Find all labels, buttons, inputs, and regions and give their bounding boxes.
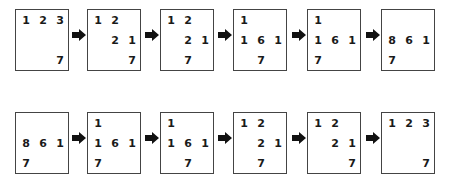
grid-cell: 2: [108, 35, 122, 47]
grid-box: 12217: [87, 9, 141, 71]
grid-cell: 1: [345, 138, 359, 150]
grid-cell: 1: [237, 118, 251, 130]
grid-cell: 2: [328, 118, 342, 130]
right-arrow-icon: [218, 26, 232, 38]
grid-box: 11617: [87, 112, 141, 174]
grid-cell: 6: [402, 35, 416, 47]
grid-cell: 1: [198, 138, 212, 150]
grid-box: 12217: [160, 9, 214, 71]
grid-cell: 6: [181, 138, 195, 150]
grid-cell: 2: [36, 15, 50, 27]
grid-cell: 1: [19, 15, 33, 27]
grid-cell: 7: [91, 158, 105, 170]
grid-cell: 7: [125, 55, 139, 67]
right-arrow-icon: [145, 129, 159, 141]
grid-cell: 7: [254, 158, 268, 170]
sequence-row-2: 8617116171161712217122171237: [0, 112, 451, 176]
grid-cell: 7: [419, 158, 433, 170]
right-arrow-icon: [366, 26, 380, 38]
sequence-row-1: 1237122171221711617116178617: [0, 9, 451, 73]
grid-box: 12217: [307, 112, 361, 174]
grid-cell: 2: [181, 15, 195, 27]
grid-cell: 3: [419, 118, 433, 130]
grid-cell: 1: [311, 35, 325, 47]
grid-box: 11617: [233, 9, 287, 71]
grid-cell: 2: [254, 138, 268, 150]
grid-cell: 8: [385, 35, 399, 47]
right-arrow-icon: [72, 26, 86, 38]
right-arrow-icon: [366, 129, 380, 141]
grid-cell: 1: [53, 138, 67, 150]
grid-cell: 1: [125, 35, 139, 47]
grid-cell: 1: [311, 118, 325, 130]
grid-cell: 1: [91, 138, 105, 150]
grid-cell: 1: [91, 15, 105, 27]
grid-cell: 7: [254, 55, 268, 67]
grid-box: 11617: [160, 112, 214, 174]
grid-cell: 1: [164, 15, 178, 27]
grid-cell: 1: [419, 35, 433, 47]
grid-cell: 1: [198, 35, 212, 47]
grid-box: 8617: [15, 112, 69, 174]
grid-cell: 2: [254, 118, 268, 130]
grid-cell: 7: [385, 55, 399, 67]
grid-cell: 7: [181, 158, 195, 170]
right-arrow-icon: [145, 26, 159, 38]
right-arrow-icon: [218, 129, 232, 141]
grid-cell: 1: [164, 138, 178, 150]
right-arrow-icon: [72, 129, 86, 141]
grid-cell: 1: [237, 15, 251, 27]
grid-cell: 2: [402, 118, 416, 130]
grid-cell: 7: [19, 158, 33, 170]
grid-box: 8617: [381, 9, 435, 71]
grid-cell: 1: [91, 118, 105, 130]
right-arrow-icon: [292, 129, 306, 141]
grid-cell: 1: [271, 35, 285, 47]
grid-cell: 8: [19, 138, 33, 150]
grid-box: 11617: [307, 9, 361, 71]
grid-cell: 7: [311, 55, 325, 67]
grid-box: 1237: [381, 112, 435, 174]
grid-cell: 1: [385, 118, 399, 130]
grid-cell: 1: [311, 15, 325, 27]
grid-cell: 6: [108, 138, 122, 150]
grid-cell: 1: [164, 118, 178, 130]
grid-box: 12217: [233, 112, 287, 174]
grid-cell: 6: [328, 35, 342, 47]
grid-cell: 1: [125, 138, 139, 150]
grid-cell: 2: [181, 35, 195, 47]
grid-cell: 6: [36, 138, 50, 150]
grid-cell: 7: [345, 158, 359, 170]
grid-cell: 1: [271, 138, 285, 150]
grid-cell: 3: [53, 15, 67, 27]
grid-cell: 1: [345, 35, 359, 47]
grid-box: 1237: [15, 9, 69, 71]
right-arrow-icon: [292, 26, 306, 38]
grid-cell: 2: [108, 15, 122, 27]
grid-cell: 7: [53, 55, 67, 67]
grid-cell: 6: [254, 35, 268, 47]
grid-cell: 7: [181, 55, 195, 67]
grid-cell: 1: [237, 35, 251, 47]
grid-cell: 2: [328, 138, 342, 150]
